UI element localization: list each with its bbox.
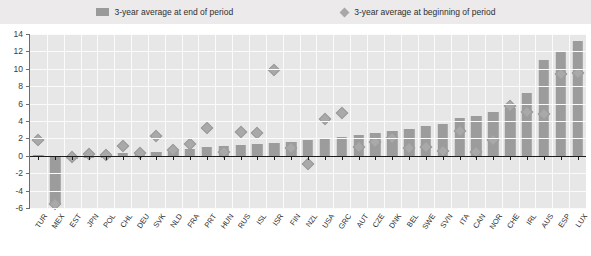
gridline-vertical [367, 34, 368, 208]
x-axis-tick-label: AUT [354, 212, 370, 229]
gridline-vertical [148, 34, 149, 208]
x-axis-tick-label: RUS [236, 212, 252, 230]
y-axis-tick-label: -6 [15, 203, 23, 213]
bar[interactable] [303, 140, 313, 156]
bar[interactable] [252, 144, 262, 155]
gridline-vertical [182, 34, 183, 208]
diamond-marker[interactable] [318, 113, 331, 126]
gridline-vertical [485, 34, 486, 208]
gridline-vertical [401, 34, 402, 208]
gridline-vertical [333, 34, 334, 208]
diamond-marker[interactable] [234, 126, 247, 139]
legend-item-beginning-of-period: 3-year average at beginning of period [341, 7, 495, 17]
x-axis-tick-label: USA [320, 212, 336, 230]
x-axis-tick-label: BEL [405, 212, 421, 229]
zero-axis-line [30, 156, 586, 158]
gridline-vertical [569, 34, 570, 208]
y-axis-tick-label: 4 [18, 116, 23, 126]
gridline-horizontal [30, 208, 586, 209]
gridline-vertical [451, 34, 452, 208]
gridline-vertical [384, 34, 385, 208]
x-axis-tick-label: ESP [556, 212, 572, 229]
gridline-vertical [165, 34, 166, 208]
gridline-vertical [131, 34, 132, 208]
x-axis-tick-label: CAN [471, 212, 487, 230]
bar[interactable] [235, 145, 245, 155]
x-axis-tick-label: CZE [371, 212, 387, 229]
x-axis-tick-label: ISR [271, 212, 286, 227]
legend-label-beginning-of-period: 3-year average at beginning of period [354, 7, 495, 17]
bar[interactable] [505, 108, 515, 156]
bar[interactable] [50, 156, 60, 204]
x-axis-tick-label: CHE [505, 212, 521, 230]
x-axis-tick-label: EST [68, 212, 84, 229]
gridline-vertical [249, 34, 250, 208]
gridline-vertical [350, 34, 351, 208]
gridline-vertical [434, 34, 435, 208]
x-axis-tick-label: GRC [336, 212, 353, 231]
diamond-marker-icon [340, 7, 350, 17]
gridline-vertical [418, 34, 419, 208]
bar[interactable] [269, 143, 279, 156]
diamond-marker[interactable] [150, 129, 163, 142]
gridline-vertical [283, 34, 284, 208]
gridline-vertical [47, 34, 48, 208]
y-axis-tick-label: 2 [18, 133, 23, 143]
x-axis-tick-label: HUN [218, 212, 235, 230]
x-axis-tick-label: CHL [118, 212, 134, 229]
x-axis-tick-label: AUS [539, 212, 555, 230]
x-axis-labels: TURMEXESTJPNPOLCHLDEUSVKNLDFRAPRTHUNRUSI… [30, 212, 586, 256]
y-axis-tick-label: 14 [14, 29, 23, 39]
x-axis-tick-label: POL [101, 212, 117, 229]
x-axis-tick-label: DEU [134, 212, 150, 230]
x-axis-tick-label: SVN [438, 212, 454, 230]
bar[interactable] [522, 93, 532, 156]
x-axis-tick-label: ITA [457, 212, 471, 226]
diamond-marker[interactable] [116, 140, 129, 153]
x-axis-tick-label: DNK [387, 212, 403, 230]
gridline-vertical [535, 34, 536, 208]
bar-swatch-icon [96, 8, 109, 16]
x-axis-tick-label: FIN [288, 212, 302, 227]
x-axis-tick-label: FRA [185, 212, 201, 229]
x-axis-tick-label: SVK [152, 212, 168, 229]
legend-label-end-of-period: 3-year average at end of period [115, 7, 234, 17]
bar[interactable] [202, 147, 212, 156]
x-axis-tick-label: PRT [202, 212, 218, 229]
gridline-vertical [468, 34, 469, 208]
x-axis-tick-label: NLD [169, 212, 185, 229]
x-axis-tick-label: IRL [524, 212, 538, 227]
y-axis-tick-label: -4 [15, 186, 23, 196]
bar[interactable] [320, 138, 330, 155]
x-axis-tick-label: MEX [50, 212, 67, 230]
bar[interactable] [336, 137, 346, 156]
x-axis-tick-label: JPN [85, 212, 101, 229]
y-axis-tick-label: -2 [15, 168, 23, 178]
x-axis-tick-label: ISL [255, 212, 269, 226]
y-axis-tick-label: 8 [18, 81, 23, 91]
chart-root: 3-year average at end of period 3-year a… [0, 0, 591, 256]
diamond-marker[interactable] [201, 122, 214, 135]
x-axis-tick-label: NOR [488, 212, 505, 231]
y-axis-tick-label: 0 [18, 151, 23, 161]
diamond-marker[interactable] [335, 107, 348, 120]
gridline-vertical [266, 34, 267, 208]
y-axis-tick-label: 10 [14, 64, 23, 74]
x-axis-tick-label: SWE [420, 212, 437, 231]
gridline-vertical [316, 34, 317, 208]
gridline-vertical [502, 34, 503, 208]
diamond-marker[interactable] [32, 134, 45, 147]
y-axis-tick-label: 6 [18, 99, 23, 109]
gridline-vertical [114, 34, 115, 208]
legend-item-end-of-period: 3-year average at end of period [96, 7, 234, 17]
y-axis: -6-4-202468101214 [0, 24, 26, 208]
gridline-vertical [81, 34, 82, 208]
gridline-vertical [64, 34, 65, 208]
plot-area-wrapper: -6-4-202468101214 TURMEXESTJPNPOLCHLDEUS… [0, 24, 591, 256]
x-axis-tick-label: NZL [304, 212, 320, 229]
y-axis-tick-label: 12 [14, 46, 23, 56]
gridline-vertical [519, 34, 520, 208]
gridline-vertical [215, 34, 216, 208]
gridline-vertical [232, 34, 233, 208]
x-axis-tick-label: TUR [34, 212, 50, 230]
